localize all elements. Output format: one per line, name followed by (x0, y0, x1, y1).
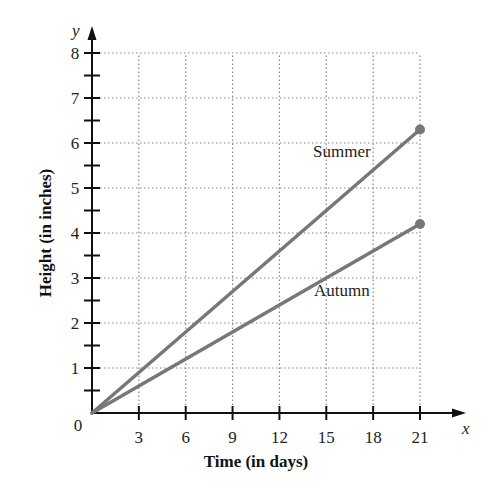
y-tick-label: 7 (71, 89, 80, 108)
series-label-summer: Summer (313, 142, 371, 161)
y-tick-label: 3 (71, 269, 80, 288)
x-tick-label: 18 (365, 428, 382, 447)
origin-label: 0 (74, 416, 83, 435)
data-series (92, 125, 425, 414)
y-tick-label: 6 (71, 134, 80, 153)
x-tick-label: 15 (318, 428, 335, 447)
x-tick-label: 6 (181, 428, 190, 447)
y-tick-label: 5 (71, 179, 80, 198)
x-tick-label: 21 (412, 428, 429, 447)
axes (84, 26, 466, 420)
series-label-autumn: Autumn (314, 281, 370, 300)
y-axis-arrow-icon (88, 26, 97, 40)
x-tick-label: 9 (228, 428, 237, 447)
x-axis-variable: x (461, 419, 470, 438)
y-tick-label: 4 (71, 224, 80, 243)
y-axis-title: Height (in inches) (36, 169, 55, 297)
endpoint-marker-summer (415, 125, 425, 135)
endpoint-marker-autumn (415, 219, 425, 229)
x-axis-arrow-icon (452, 409, 466, 418)
x-tick-label: 12 (271, 428, 288, 447)
x-tick-label: 3 (135, 428, 144, 447)
x-axis-title: Time (in days) (204, 452, 309, 471)
grid-lines (92, 53, 420, 413)
y-tick-label: 8 (71, 44, 80, 63)
line-chart: 36912151821123456780xyTime (in days)Heig… (0, 0, 495, 492)
series-line-autumn (92, 224, 420, 413)
y-axis-variable: y (70, 21, 80, 40)
y-tick-label: 2 (71, 314, 80, 333)
y-tick-label: 1 (71, 359, 80, 378)
series-line-summer (92, 130, 420, 414)
